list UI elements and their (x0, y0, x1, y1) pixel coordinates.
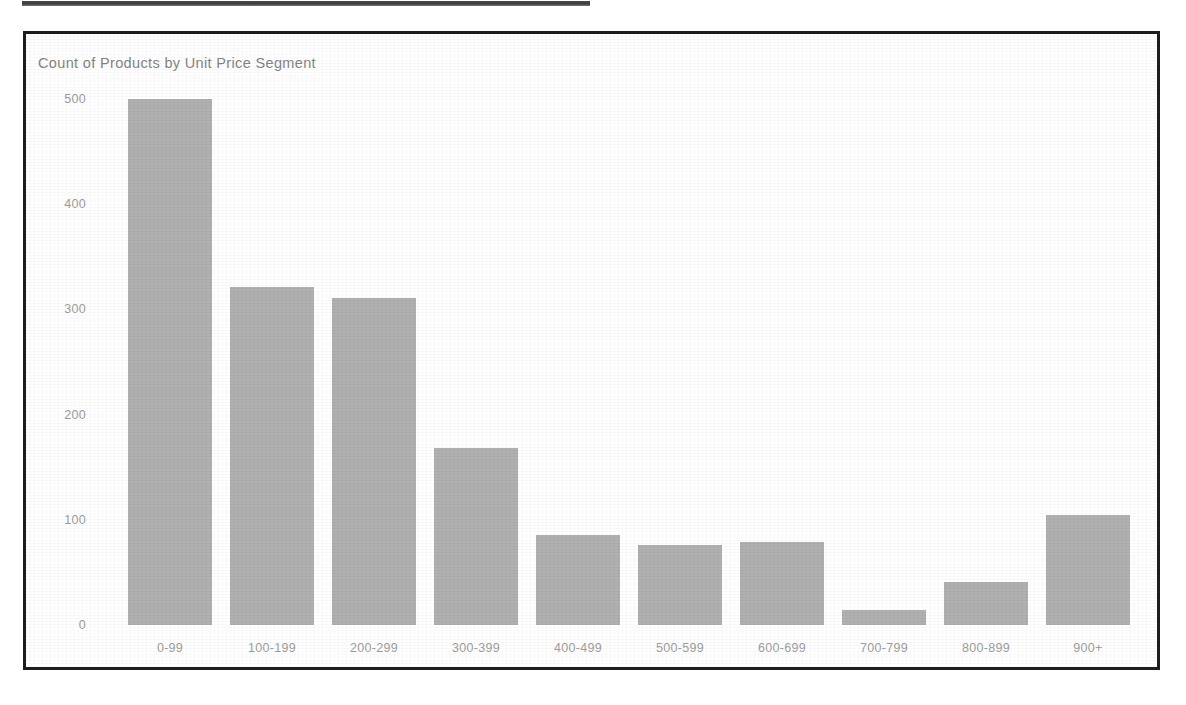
bar-400-499[interactable] (536, 535, 620, 625)
bar-500-599[interactable] (638, 545, 722, 625)
x-axis-tick-500-599: 500-599 (656, 641, 704, 655)
bar-700-799[interactable] (842, 610, 926, 625)
bar-600-699[interactable] (740, 542, 824, 625)
bar-800-899[interactable] (944, 582, 1028, 625)
bar-900+[interactable] (1046, 515, 1130, 625)
x-axis-tick-400-499: 400-499 (554, 641, 602, 655)
truncated-dark-bar (22, 1, 590, 6)
x-axis-tick-600-699: 600-699 (758, 641, 806, 655)
x-axis-tick-900+: 900+ (1073, 641, 1102, 655)
x-axis-tick-0-99: 0-99 (157, 641, 183, 655)
y-axis-tick-100: 100 (40, 513, 86, 527)
x-axis-tick-800-899: 800-899 (962, 641, 1010, 655)
x-axis-tick-300-399: 300-399 (452, 641, 500, 655)
y-axis-tick-500: 500 (40, 92, 86, 106)
x-axis-tick-200-299: 200-299 (350, 641, 398, 655)
y-axis-tick-0: 0 (40, 618, 86, 632)
chart-plot-area: 01002003004005000-99100-199200-299300-39… (26, 34, 1157, 667)
y-axis-tick-300: 300 (40, 302, 86, 316)
bar-100-199[interactable] (230, 287, 314, 625)
bar-200-299[interactable] (332, 298, 416, 625)
y-axis-tick-200: 200 (40, 408, 86, 422)
chart-card: Count of Products by Unit Price Segment … (23, 31, 1160, 670)
x-axis-tick-100-199: 100-199 (248, 641, 296, 655)
x-axis-tick-700-799: 700-799 (860, 641, 908, 655)
y-axis-tick-400: 400 (40, 197, 86, 211)
bar-0-99[interactable] (128, 99, 212, 625)
bar-300-399[interactable] (434, 448, 518, 625)
